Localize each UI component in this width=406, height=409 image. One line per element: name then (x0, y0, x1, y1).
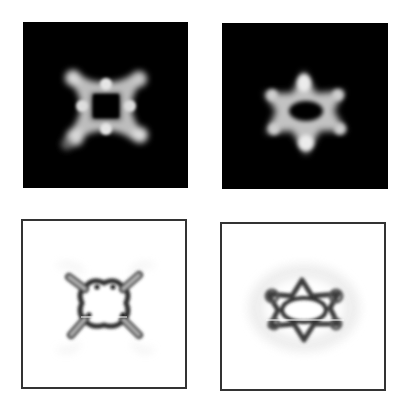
cross-glow-image (23, 22, 188, 188)
panel-bottom-left-cross (21, 219, 187, 389)
star-glow-image (222, 23, 388, 189)
cross-inverted-image (23, 221, 185, 387)
panel-bottom-right-star (220, 222, 386, 391)
panel-top-left-cross (23, 22, 188, 188)
star-inverted-image (222, 224, 384, 389)
panel-top-right-star (222, 23, 388, 189)
